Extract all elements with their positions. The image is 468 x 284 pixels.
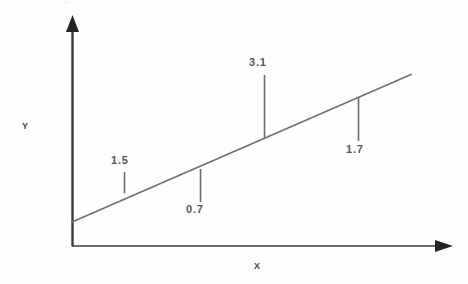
plot-canvas: [0, 0, 468, 284]
residual-label-3: 3.1: [249, 57, 267, 68]
residual-label-4: 1.7: [346, 144, 364, 155]
y-axis-label: Y: [22, 122, 29, 131]
residual-label-2: 0.7: [186, 204, 204, 215]
x-axis-arrow-icon: [435, 240, 453, 252]
regression-residual-figure: Y X 1.5 0.7 3.1 1.7: [0, 0, 468, 284]
residual-label-1: 1.5: [111, 155, 129, 166]
y-axis-arrow-icon: [66, 15, 79, 32]
x-axis-label: X: [254, 262, 261, 271]
